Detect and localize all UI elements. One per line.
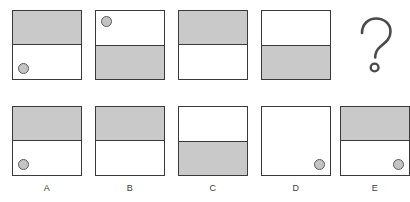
answer-option-c[interactable] <box>178 106 248 176</box>
answer-label-a: A <box>12 183 82 193</box>
answer-option-a[interactable] <box>12 106 82 176</box>
stimulus-cell-4 <box>261 10 331 80</box>
shaded-band-top <box>13 11 81 45</box>
answer-label-e: E <box>340 183 410 193</box>
dot-marker <box>393 159 404 170</box>
shaded-band-top <box>13 107 81 141</box>
stimulus-cell-2 <box>95 10 165 80</box>
shaded-band-bottom <box>262 45 330 79</box>
answer-label-d: D <box>261 183 331 193</box>
stimulus-cell-3 <box>178 10 248 80</box>
shaded-band-bottom <box>96 45 164 79</box>
dot-marker <box>18 159 29 170</box>
stimulus-cell-1 <box>12 10 82 80</box>
answer-option-e[interactable] <box>340 106 410 176</box>
dot-marker <box>101 16 112 27</box>
shaded-band-bottom <box>179 141 247 175</box>
shaded-band-top <box>179 11 247 45</box>
shaded-band-top <box>96 107 164 141</box>
dot-marker <box>314 159 325 170</box>
answer-option-b[interactable] <box>95 106 165 176</box>
question-mark-icon <box>340 10 410 80</box>
answer-option-d[interactable] <box>261 106 331 176</box>
answer-label-c: C <box>178 183 248 193</box>
answer-label-b: B <box>95 183 165 193</box>
dot-marker <box>18 63 29 74</box>
shaded-band-top <box>341 107 409 141</box>
matrix-reasoning-puzzle: A B C D E <box>0 0 410 202</box>
